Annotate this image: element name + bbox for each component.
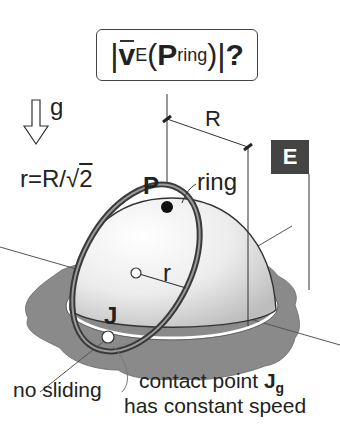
point-sub: ring <box>177 45 207 66</box>
ring-label: ring <box>197 168 237 196</box>
radius-relation-eq: = <box>28 165 42 192</box>
point-J-dot <box>102 331 114 343</box>
contact-point-label: contact point Jg <box>139 369 284 396</box>
big-radius-label: R <box>205 106 221 132</box>
gravity-label: g <box>50 93 63 121</box>
paren-open: ( <box>147 38 157 72</box>
sqrt-icon: √ <box>66 165 79 192</box>
constant-speed-label: has constant speed <box>124 394 306 418</box>
velocity-frame-sub: E <box>135 45 147 66</box>
abs-bar-right: | <box>217 37 225 74</box>
point-P-dot <box>161 201 173 213</box>
radius-relation-lhs: r <box>20 165 28 192</box>
frame-E-badge: E <box>271 140 309 174</box>
question-title-box: | v E ( P ring ) | ? <box>96 29 258 81</box>
contact-point-text: contact point <box>139 369 264 392</box>
point-symbol: P <box>157 38 177 72</box>
ring-center-dot <box>131 268 141 278</box>
radius-relation: r=R/√2 <box>20 165 93 193</box>
question-mark: ? <box>226 38 244 72</box>
sqrt-arg: 2 <box>79 165 92 192</box>
no-sliding-label: no sliding <box>13 378 102 402</box>
abs-bar-left: | <box>110 37 118 74</box>
small-radius-label: r <box>163 259 171 287</box>
contact-point-symbol: J <box>264 369 276 392</box>
velocity-symbol: v <box>118 38 135 72</box>
paren-close: ) <box>207 38 217 72</box>
secondary-axis-line <box>258 226 292 246</box>
gravity-arrow-icon <box>24 100 48 144</box>
point-J-label: J <box>104 302 117 330</box>
radius-relation-rhs: R/ <box>42 165 66 192</box>
point-P-label: P <box>143 172 159 200</box>
